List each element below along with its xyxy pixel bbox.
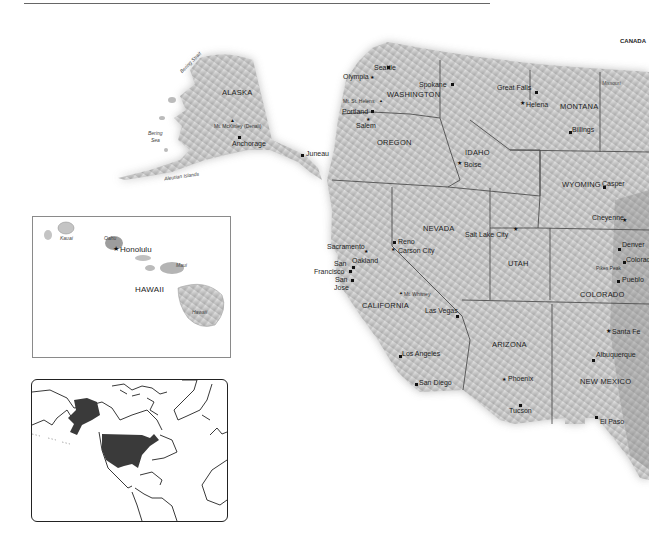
river-label-missouri: Missouri — [602, 81, 621, 86]
city-dot-casper — [603, 186, 606, 189]
city-dot-colorado-springs — [623, 261, 626, 264]
city-label-anchorage: Anchorage — [232, 140, 266, 147]
water-label-bering: Bering — [148, 131, 162, 136]
capital-star-icon: ★ — [366, 117, 370, 122]
city-label-salem: Salem — [356, 122, 376, 129]
city-label-oakland: Oakland — [352, 257, 378, 264]
city-label-reno: Reno — [398, 238, 415, 245]
locator-map — [31, 379, 228, 522]
city-dot-los-angeles — [399, 355, 402, 358]
city-label-pueblo: Pueblo — [622, 276, 644, 283]
city-dot-oakland — [352, 266, 355, 269]
city-label-san-francisco-2: Francisco — [314, 268, 344, 275]
city-label-san-jose-2: Jose — [334, 284, 349, 291]
capital-star-icon: ★ — [513, 226, 518, 232]
city-dot-portland — [371, 110, 374, 113]
capital-star-icon: ★ — [520, 100, 525, 106]
city-label-boise: Boise — [464, 161, 482, 168]
state-label-new-mexico: NEW MEXICO — [580, 378, 631, 386]
city-label-san-diego: San Diego — [419, 379, 452, 386]
peak-icon: ▲ — [379, 99, 383, 103]
city-label-billings: Billings — [572, 126, 594, 133]
state-label-california: CALIFORNIA — [362, 302, 409, 310]
city-label-denver: Denver — [622, 241, 645, 248]
city-label-portland: Portland — [342, 108, 368, 115]
city-dot-denver — [618, 248, 621, 251]
state-label-colorado: COLORADO — [580, 291, 625, 299]
state-label-oregon: OREGON — [377, 139, 412, 147]
city-label-juneau: Juneau — [306, 150, 329, 157]
city-label-helena: Helena — [526, 101, 548, 108]
peak-label-pikes-peak: Pikes Peak — [596, 266, 621, 271]
capital-star-icon: ★ — [622, 217, 627, 223]
alaska-shape — [118, 54, 322, 180]
city-dot-san-francisco — [349, 270, 352, 273]
capital-star-icon: ★ — [502, 377, 506, 382]
island-label-kauai: Kauai — [60, 236, 73, 241]
capital-star-icon: ★ — [391, 247, 395, 252]
island-label-oahu: Oahu — [104, 236, 116, 241]
city-dot-juneau — [301, 154, 304, 157]
state-label-alaska: ALASKA — [222, 89, 252, 97]
city-label-las-vegas: Las Vegas — [425, 307, 458, 314]
city-label-seattle: Seattle — [374, 64, 396, 71]
water-label-sea: Sea — [151, 138, 160, 143]
city-dot-seattle — [387, 66, 390, 69]
state-label-montana: MONTANA — [560, 103, 598, 111]
city-dot-spokane — [451, 83, 454, 86]
city-label-san-francisco-1: San — [334, 260, 346, 267]
city-label-cheyenne: Cheyenne — [592, 214, 624, 221]
state-label-utah: UTAH — [508, 260, 529, 268]
city-label-albuquerque: Albuquerque — [596, 351, 636, 358]
city-label-colorado-springs: Colorado Springs — [626, 256, 649, 263]
city-dot-san-jose — [351, 279, 354, 282]
state-label-wyoming: WYOMING — [562, 181, 601, 189]
city-dot-el-paso — [595, 416, 598, 419]
city-label-great-falls: Great Falls — [497, 84, 531, 91]
state-label-washington: WASHINGTON — [387, 91, 440, 99]
state-label-idaho: IDAHO — [465, 149, 490, 157]
city-label-sacramento: Sacramento — [327, 243, 365, 250]
city-dot-anchorage — [238, 136, 241, 139]
state-label-hawaii: HAWAII — [135, 286, 164, 294]
state-label-nevada: NEVADA — [423, 225, 455, 233]
capital-star-icon: ★ — [364, 249, 368, 254]
peak-label-mckinley: Mt. McKinley (Denali) — [214, 124, 262, 129]
city-dot-pueblo — [617, 280, 620, 283]
city-dot-billings — [569, 131, 572, 134]
capital-star-icon: ★ — [370, 75, 374, 80]
city-dot-las-vegas — [456, 315, 459, 318]
city-label-olympia: Olympia — [343, 73, 369, 80]
city-dot-albuquerque — [592, 359, 595, 362]
peak-icon: ▲ — [399, 291, 403, 295]
capital-star-icon: ★ — [606, 328, 611, 334]
city-label-tucson: Tucson — [509, 407, 532, 414]
state-label-arizona: ARIZONA — [492, 341, 527, 349]
island-label-hawaii: Hawaii — [192, 310, 207, 315]
city-dot-tucson — [519, 404, 522, 407]
city-dot-great-falls — [535, 91, 538, 94]
city-label-el-paso: El Paso — [600, 418, 624, 425]
city-label-los-angeles: Los Angeles — [402, 350, 440, 357]
city-label-honolulu: Honolulu — [120, 246, 152, 254]
island-label-maui: Maui — [176, 263, 187, 268]
locator-outline — [32, 380, 227, 521]
city-label-carson-city: Carson City — [398, 247, 435, 254]
city-dot-reno — [393, 241, 396, 244]
city-label-salt-lake-city: Salt Lake City — [465, 231, 508, 238]
city-label-san-jose-1: San — [335, 276, 347, 283]
peak-label-mt-st-helens: Mt. St. Helens — [343, 99, 374, 104]
city-label-santa-fe: Santa Fe — [612, 328, 640, 335]
capital-star-icon: ★ — [113, 245, 119, 252]
city-label-phoenix: Phoenix — [508, 375, 533, 382]
peak-label-mt-whitney: Mt. Whitney — [404, 292, 430, 297]
capital-star-icon: ★ — [457, 160, 462, 166]
city-label-spokane: Spokane — [419, 81, 447, 88]
city-dot-san-diego — [415, 383, 418, 386]
